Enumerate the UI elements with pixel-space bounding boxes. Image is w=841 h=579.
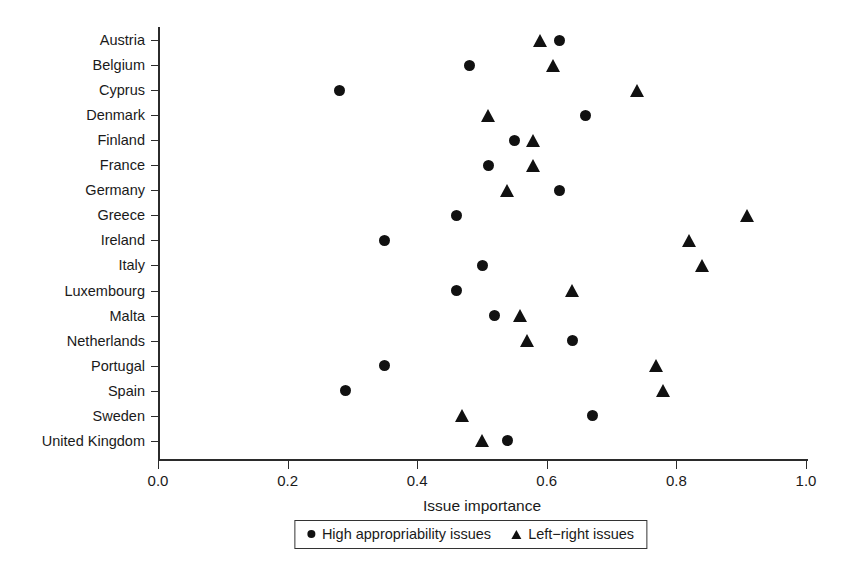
- x-axis-tick: [806, 461, 807, 469]
- data-point-circle-netherlands: [567, 335, 578, 346]
- legend-entry-high-appropriability: High appropriability issues: [307, 527, 491, 542]
- y-axis-label-greece: Greece: [0, 208, 145, 223]
- y-axis-line: [158, 27, 160, 459]
- data-point-triangle-portugal: [649, 359, 663, 372]
- data-point-circle-austria: [554, 35, 565, 46]
- y-axis-tick: [151, 391, 158, 392]
- y-axis-label-sweden: Sweden: [0, 409, 145, 424]
- y-axis-label-cyprus: Cyprus: [0, 83, 145, 98]
- y-axis-label-france: France: [0, 158, 145, 173]
- y-axis-tick: [151, 316, 158, 317]
- y-axis-label-spain: Spain: [0, 384, 145, 399]
- y-axis-label-netherlands: Netherlands: [0, 334, 145, 349]
- data-point-triangle-cyprus: [630, 84, 644, 97]
- data-point-circle-united-kingdom: [502, 435, 513, 446]
- legend-label-left-right: Left−right issues: [528, 527, 634, 542]
- data-point-triangle-malta: [513, 309, 527, 322]
- y-axis-label-united-kingdom: United Kingdom: [0, 434, 145, 449]
- data-point-triangle-netherlands: [520, 334, 534, 347]
- data-point-triangle-finland: [526, 134, 540, 147]
- data-point-triangle-ireland: [682, 234, 696, 247]
- y-axis-label-portugal: Portugal: [0, 359, 145, 374]
- y-axis-tick: [151, 416, 158, 417]
- data-point-circle-germany: [554, 185, 565, 196]
- x-axis-tick: [158, 461, 159, 469]
- chart-legend: High appropriability issues Left−right i…: [294, 520, 647, 549]
- data-point-circle-luxembourg: [451, 285, 462, 296]
- data-point-circle-france: [483, 160, 494, 171]
- data-point-circle-greece: [451, 210, 462, 221]
- data-point-circle-finland: [509, 135, 520, 146]
- y-axis-label-ireland: Ireland: [0, 233, 145, 248]
- y-axis-tick: [151, 165, 158, 166]
- y-axis-tick: [151, 291, 158, 292]
- x-axis-title: Issue importance: [0, 498, 841, 514]
- y-axis-tick: [151, 265, 158, 266]
- data-point-circle-spain: [340, 385, 351, 396]
- y-axis-label-italy: Italy: [0, 258, 145, 273]
- y-axis-label-malta: Malta: [0, 309, 145, 324]
- plot-area: AustriaBelgiumCyprusDenmarkFinlandFrance…: [0, 0, 841, 470]
- data-point-circle-portugal: [379, 360, 390, 371]
- y-axis-label-luxembourg: Luxembourg: [0, 284, 145, 299]
- x-axis-tick-label: 0.4: [387, 473, 447, 488]
- data-point-triangle-denmark: [481, 109, 495, 122]
- x-axis-tick: [288, 461, 289, 469]
- data-point-triangle-united-kingdom: [475, 434, 489, 447]
- data-point-circle-ireland: [379, 235, 390, 246]
- y-axis-tick: [151, 341, 158, 342]
- x-axis-line: [158, 459, 808, 461]
- y-axis-tick: [151, 366, 158, 367]
- legend-label-high-appropriability: High appropriability issues: [322, 527, 491, 542]
- x-axis-tick-label: 1.0: [776, 473, 836, 488]
- scatter-chart-figure: AustriaBelgiumCyprusDenmarkFinlandFrance…: [0, 0, 841, 579]
- y-axis-label-denmark: Denmark: [0, 108, 145, 123]
- y-axis-tick: [151, 441, 158, 442]
- triangle-marker-icon: [511, 530, 521, 539]
- y-axis-tick: [151, 140, 158, 141]
- data-point-triangle-spain: [656, 384, 670, 397]
- data-point-circle-sweden: [587, 410, 598, 421]
- data-point-triangle-greece: [740, 209, 754, 222]
- data-point-circle-cyprus: [334, 85, 345, 96]
- y-axis-tick: [151, 115, 158, 116]
- y-axis-tick: [151, 90, 158, 91]
- data-point-triangle-germany: [500, 184, 514, 197]
- data-point-triangle-sweden: [455, 409, 469, 422]
- data-point-triangle-luxembourg: [565, 284, 579, 297]
- data-point-triangle-france: [526, 159, 540, 172]
- data-point-circle-italy: [477, 260, 488, 271]
- x-axis-tick-label: 0.6: [517, 473, 577, 488]
- y-axis-label-germany: Germany: [0, 183, 145, 198]
- data-point-circle-malta: [489, 310, 500, 321]
- y-axis-tick: [151, 65, 158, 66]
- data-point-triangle-belgium: [546, 59, 560, 72]
- x-axis-tick: [547, 461, 548, 469]
- data-point-triangle-austria: [533, 34, 547, 47]
- y-axis-label-belgium: Belgium: [0, 58, 145, 73]
- y-axis-tick: [151, 215, 158, 216]
- legend-entry-left-right: Left−right issues: [511, 527, 634, 542]
- y-axis-tick: [151, 40, 158, 41]
- y-axis-tick: [151, 190, 158, 191]
- y-axis-tick: [151, 240, 158, 241]
- data-point-triangle-italy: [695, 259, 709, 272]
- x-axis-tick-label: 0.0: [128, 473, 188, 488]
- x-axis-tick: [676, 461, 677, 469]
- circle-marker-icon: [307, 530, 315, 538]
- y-axis-label-austria: Austria: [0, 33, 145, 48]
- y-axis-label-finland: Finland: [0, 133, 145, 148]
- data-point-circle-denmark: [580, 110, 591, 121]
- x-axis-tick-label: 0.2: [258, 473, 318, 488]
- x-axis-tick-label: 0.8: [646, 473, 706, 488]
- x-axis-tick: [417, 461, 418, 469]
- data-point-circle-belgium: [464, 60, 475, 71]
